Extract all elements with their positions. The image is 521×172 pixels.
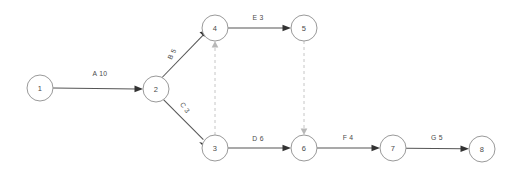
node-3[interactable]: 3 [202,135,228,161]
edge-label-F: F 4 [343,134,354,141]
edge-A-arrowhead [135,86,144,93]
edge-E-arrowhead [283,25,292,32]
edge-A-line [53,88,137,89]
edge-label-B: B 5 [166,47,177,60]
node-6[interactable]: 6 [291,135,317,161]
edge-A-1-to-2 [53,86,143,93]
dummy-edge-3-to-4 [212,41,219,135]
edge-G-arrowhead [461,146,470,153]
node-8-label: 8 [480,145,484,154]
node-7-label: 7 [391,144,395,153]
node-6-label: 6 [302,144,306,153]
node-4[interactable]: 4 [202,15,228,41]
dummy-edge-5-to-6-arrowhead [301,128,308,135]
node-8[interactable]: 8 [469,136,495,162]
edge-D-arrowhead [283,145,292,152]
edge-label-D: D 6 [252,135,263,142]
edge-label-C: C 3 [179,101,191,114]
node-5[interactable]: 5 [291,15,317,41]
edge-label-G: G 5 [431,134,443,141]
activity-on-arrow-network-diagram: 1 2 3 4 5 6 7 8 A [0,0,521,172]
dummy-edge-5-to-6 [301,41,308,135]
node-5-label: 5 [302,24,306,33]
edge-F-6-to-7 [317,145,380,152]
node-2[interactable]: 2 [143,76,169,102]
edge-F-arrowhead [372,145,381,152]
edge-label-A: A 10 [93,70,108,77]
edge-G-line [406,148,463,149]
edge-D-3-to-6 [228,145,291,152]
node-1-label: 1 [38,84,42,93]
node-4-label: 4 [213,24,217,33]
dummy-edge-3-to-4-arrowhead [212,41,219,48]
node-2-label: 2 [154,85,158,94]
node-7[interactable]: 7 [380,135,406,161]
network-diagram-canvas: 1 2 3 4 5 6 7 8 A [0,0,521,172]
edge-label-E: E 3 [252,14,263,21]
edge-G-7-to-8 [406,146,469,153]
node-1[interactable]: 1 [27,75,53,101]
edge-E-4-to-5 [228,25,291,32]
node-3-label: 3 [213,144,217,153]
